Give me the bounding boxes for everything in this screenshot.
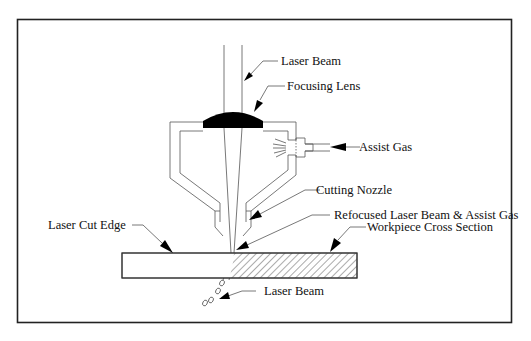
label-assist-gas: Assist Gas xyxy=(359,140,412,154)
nozzle-housing xyxy=(170,122,296,236)
label-laser-beam-top: Laser Beam xyxy=(281,54,341,68)
laser-cutting-diagram: Laser Beam Focusing Lens Assist Gas Cutt… xyxy=(0,0,531,341)
focusing-lens xyxy=(203,112,263,128)
workpiece xyxy=(122,253,357,278)
label-workpiece: Workpiece Cross Section xyxy=(367,220,494,234)
incoming-laser-beam xyxy=(224,45,242,113)
label-laser-cut-edge: Laser Cut Edge xyxy=(48,218,126,232)
ejected-droplets xyxy=(202,279,226,306)
label-focusing-lens: Focusing Lens xyxy=(287,79,360,93)
label-laser-beam-bottom: Laser Beam xyxy=(264,284,324,298)
assist-gas-port xyxy=(273,138,330,157)
label-cutting-nozzle: Cutting Nozzle xyxy=(316,183,392,197)
